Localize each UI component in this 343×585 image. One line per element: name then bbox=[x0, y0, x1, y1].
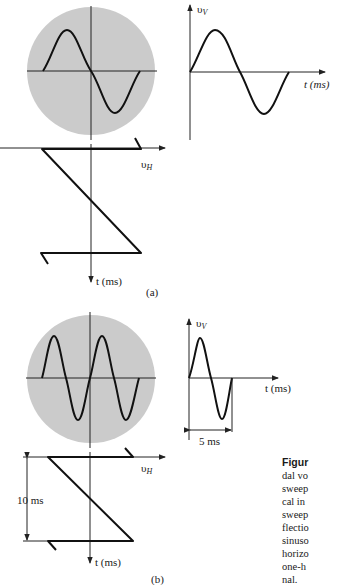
caption-line: dal vo bbox=[282, 470, 308, 481]
sweep-plot-a: υH t (ms) bbox=[0, 138, 165, 288]
caption-line: sweep bbox=[282, 483, 308, 494]
sweep-time-axis-label: t (ms) bbox=[95, 556, 121, 569]
screen-circle bbox=[27, 315, 155, 443]
panel-a: υV t (ms) υH t (ms) (a) bbox=[0, 3, 330, 299]
caption-line: sweep bbox=[282, 509, 308, 520]
caption-line: nal. bbox=[282, 574, 297, 585]
caption-line: one-h bbox=[282, 561, 307, 572]
time-axis-label: t (ms) bbox=[304, 78, 330, 91]
oscilloscope-figure: υV t (ms) υH t (ms) (a) 5 ms bbox=[0, 0, 343, 585]
vh-axis-label: υH bbox=[141, 462, 153, 476]
vertical-signal-plot-a: υV t (ms) bbox=[190, 3, 330, 140]
time-axis-label: t (ms) bbox=[265, 382, 291, 395]
caption-line: horizo bbox=[282, 548, 309, 559]
panel-b: 5 ms υV t (ms) 10 ms υH t (ms) (b) bbox=[17, 312, 291, 585]
caption-line: flectio bbox=[282, 522, 309, 533]
panel-label-b: (b) bbox=[151, 573, 164, 585]
caption-line: cal in bbox=[282, 496, 306, 507]
period-label: 5 ms bbox=[199, 435, 220, 447]
vv-axis-label: υV bbox=[196, 317, 207, 331]
crt-screen-b bbox=[26, 312, 156, 448]
vh-axis-label: υH bbox=[141, 158, 153, 172]
caption-line: Figur bbox=[282, 456, 308, 468]
crt-screen-a bbox=[27, 6, 157, 140]
sweep-period-label: 10 ms bbox=[17, 494, 44, 506]
sweep-time-axis-label: t (ms) bbox=[96, 275, 122, 288]
figure-caption: Figur dal vo sweep cal in sweep flectio … bbox=[282, 456, 309, 585]
sweep-plot-b: 10 ms υH t (ms) bbox=[17, 448, 165, 569]
vv-axis-label: υV bbox=[197, 3, 208, 17]
caption-line: sinuso bbox=[282, 535, 309, 546]
panel-label-a: (a) bbox=[146, 286, 159, 299]
vertical-signal-plot-b: 5 ms υV t (ms) bbox=[189, 317, 291, 447]
